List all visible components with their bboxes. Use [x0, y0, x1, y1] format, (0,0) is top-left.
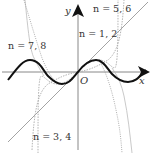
origin-label: O	[80, 75, 88, 86]
taylor-series-diagram: y x O n = 5, 6 n = 1, 2 n = 7, 8 n = 3, …	[0, 0, 154, 153]
label-n-5-6: n = 5, 6	[93, 3, 131, 14]
y-axis-label: y	[64, 5, 71, 16]
curve-n-7-8-upper-left	[25, 0, 44, 76]
label-n-7-8: n = 7, 8	[8, 40, 46, 51]
x-axis-label: x	[139, 75, 145, 86]
curve-n-7-8-dotted-right	[100, 62, 122, 153]
label-n-3-4: n = 3, 4	[33, 131, 71, 142]
label-n-1-2: n = 1, 2	[79, 28, 117, 39]
